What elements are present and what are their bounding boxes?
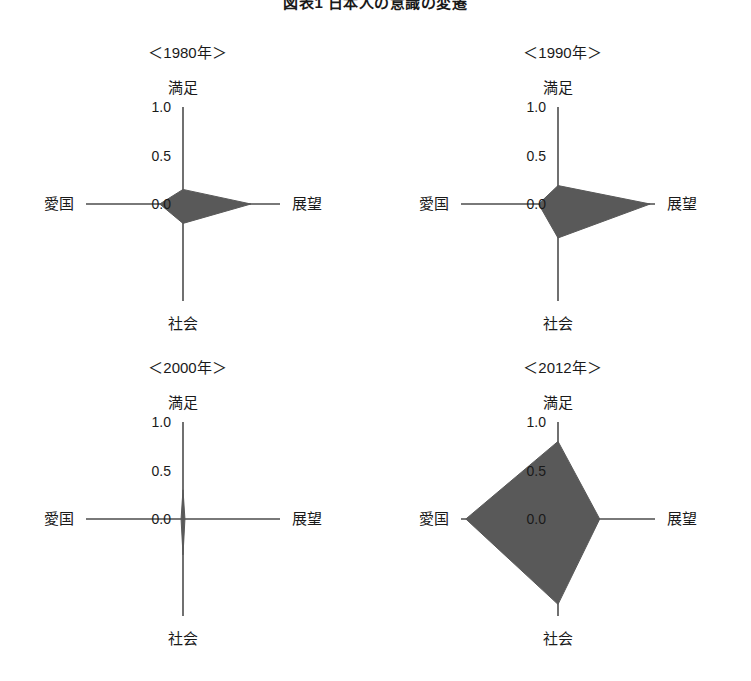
- radar-plot-1980: 1.00.50.0満足展望社会愛国: [0, 35, 375, 350]
- radar-plot-1990: 1.00.50.0満足展望社会愛国: [375, 35, 750, 350]
- radial-tick-label: 0.5: [152, 463, 172, 479]
- radar-panel-1980: ＜1980年＞ 1.00.50.0満足展望社会愛国: [0, 35, 375, 350]
- figure-title: 図表1 日本人の意識の変遷: [0, 0, 751, 12]
- axis-label-愛国: 愛国: [419, 510, 449, 527]
- axis-label-愛国: 愛国: [419, 195, 449, 212]
- axis-label-満足: 満足: [168, 394, 198, 411]
- axis-label-満足: 満足: [543, 79, 573, 96]
- radar-area-2000: [181, 490, 185, 555]
- radial-tick-label: 1.0: [527, 414, 547, 430]
- axis-label-社会: 社会: [168, 630, 198, 647]
- axis-label-社会: 社会: [168, 315, 198, 332]
- axis-label-展望: 展望: [292, 195, 322, 212]
- radial-tick-label: 0.5: [527, 463, 547, 479]
- axis-label-展望: 展望: [667, 510, 697, 527]
- radial-tick-label: 1.0: [152, 414, 172, 430]
- axis-label-愛国: 愛国: [44, 195, 74, 212]
- radar-panel-2012: ＜2012年＞ 1.00.50.0満足展望社会愛国: [375, 350, 750, 665]
- radar-plot-2012: 1.00.50.0満足展望社会愛国: [375, 350, 750, 665]
- axis-label-社会: 社会: [543, 630, 573, 647]
- radar-area-1990: [539, 186, 651, 238]
- axis-label-展望: 展望: [667, 195, 697, 212]
- radial-tick-label: 0.5: [152, 148, 172, 164]
- radial-tick-label: 1.0: [152, 99, 172, 115]
- axis-label-満足: 満足: [168, 79, 198, 96]
- radial-tick-label: 0.0: [152, 196, 172, 212]
- radar-panel-1990: ＜1990年＞ 1.00.50.0満足展望社会愛国: [375, 35, 750, 350]
- radial-tick-label: 0.0: [152, 511, 172, 527]
- radial-tick-label: 0.0: [527, 511, 547, 527]
- radial-tick-label: 1.0: [527, 99, 547, 115]
- axis-label-社会: 社会: [543, 315, 573, 332]
- axis-label-満足: 満足: [543, 394, 573, 411]
- radial-tick-label: 0.5: [527, 148, 547, 164]
- axis-label-愛国: 愛国: [44, 510, 74, 527]
- radar-panel-2000: ＜2000年＞ 1.00.50.0満足展望社会愛国: [0, 350, 375, 665]
- radial-tick-label: 0.0: [527, 196, 547, 212]
- radar-area-1980: [160, 189, 251, 223]
- radar-plot-2000: 1.00.50.0満足展望社会愛国: [0, 350, 375, 665]
- axis-label-展望: 展望: [292, 510, 322, 527]
